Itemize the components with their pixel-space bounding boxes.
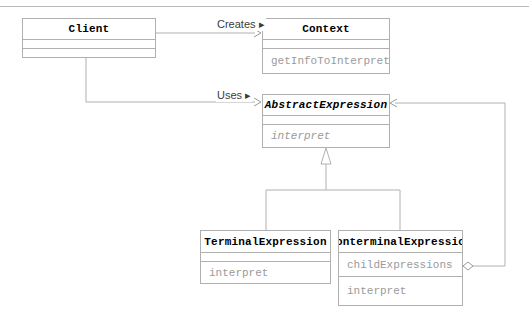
uml-diagram-canvas: Client Context getInfoToInterpret Abstra… <box>0 0 529 315</box>
edge-label-creates: Creates ▸ <box>216 18 266 31</box>
operation-interpret-abstract: interpret <box>263 124 389 147</box>
attributes-compartment-abstract-expression <box>263 115 389 124</box>
uml-class-nonterminal-expression[interactable]: NonterminalExpression childExpressions i… <box>338 230 463 306</box>
edge-label-uses: Uses ▸ <box>216 89 252 102</box>
edge-generalization <box>266 148 400 230</box>
uml-class-abstract-expression[interactable]: AbstractExpression interpret <box>262 94 390 148</box>
attributes-compartment-terminal-expression <box>201 252 330 261</box>
class-name-client: Client <box>23 19 155 39</box>
class-name-terminal-expression: TerminalExpression <box>201 231 330 252</box>
class-name-abstract-expression: AbstractExpression <box>263 95 389 115</box>
class-name-nonterminal-expression: NonterminalExpression <box>339 231 462 252</box>
operations-compartment-client <box>23 48 155 57</box>
operation-interpret-nonterminal: interpret <box>339 276 462 305</box>
attributes-compartment-client <box>23 39 155 48</box>
uml-class-context[interactable]: Context getInfoToInterpret <box>262 18 390 74</box>
class-name-context: Context <box>263 19 389 39</box>
attribute-child-expressions: childExpressions <box>339 252 462 276</box>
uml-class-client[interactable]: Client <box>22 18 156 58</box>
uml-class-terminal-expression[interactable]: TerminalExpression interpret <box>200 230 331 284</box>
operation-interpret-terminal: interpret <box>201 261 330 283</box>
attributes-compartment-context <box>263 39 389 48</box>
operation-get-info-to-interpret: getInfoToInterpret <box>263 48 389 73</box>
